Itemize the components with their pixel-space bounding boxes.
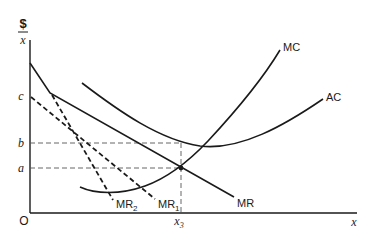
mr1-label: MR1 <box>158 198 180 213</box>
price-label-a: a <box>18 161 24 175</box>
ac-curve <box>82 83 323 147</box>
origin-label: O <box>19 214 28 228</box>
ac-label: AC <box>326 91 341 103</box>
mc-curve <box>80 50 280 193</box>
mr-label: MR <box>237 197 254 209</box>
mc-mr-intersection-point <box>179 166 184 171</box>
x-axis-label: x <box>350 215 357 229</box>
y-axis-label-dollar: $ <box>19 16 27 31</box>
price-label-c: c <box>18 89 24 103</box>
price-label-b: b <box>18 136 24 150</box>
profit-maximization-diagram: $ x O x c b a x3 MR MR1 MR2 MC AC <box>0 0 370 237</box>
y-axis-label-x: x <box>19 33 26 47</box>
mr2-label: MR2 <box>116 198 138 213</box>
mr1-curve <box>31 97 155 199</box>
mr-curve <box>30 63 234 197</box>
quantity-label-x3: x3 <box>173 214 183 230</box>
mc-label: MC <box>283 41 300 53</box>
